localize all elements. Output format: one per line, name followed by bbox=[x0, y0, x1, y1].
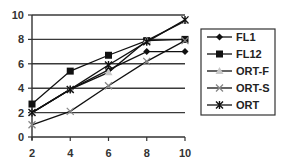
y-tick-label: 6 bbox=[18, 58, 24, 70]
legend-label: FL12 bbox=[236, 48, 262, 60]
series-line bbox=[32, 52, 185, 113]
y-axis-ticks: 0246810 bbox=[12, 9, 25, 143]
square-marker-icon bbox=[105, 52, 112, 59]
series-lines bbox=[28, 16, 189, 128]
legend-label: ORT bbox=[236, 99, 260, 111]
x-tick-label: 2 bbox=[29, 147, 35, 159]
legend-label: ORT-S bbox=[236, 82, 270, 94]
square-marker-icon bbox=[67, 68, 74, 75]
diamond-marker-icon bbox=[182, 48, 189, 55]
star-marker-icon bbox=[105, 61, 112, 69]
x-marker-icon bbox=[67, 108, 74, 115]
series-ort bbox=[29, 16, 189, 117]
diamond-marker-icon bbox=[143, 48, 150, 55]
y-tick-label: 10 bbox=[12, 9, 24, 21]
star-marker-icon bbox=[182, 16, 189, 24]
series-ort-s bbox=[29, 37, 189, 128]
legend-label: FL1 bbox=[236, 31, 256, 43]
x-tick-label: 10 bbox=[179, 147, 191, 159]
legend-label: ORT-F bbox=[236, 65, 269, 77]
square-marker-icon bbox=[29, 101, 36, 108]
line-chart: 0246810 246810 FL1FL12ORT-FORT-SORT bbox=[0, 0, 288, 167]
square-marker-icon bbox=[216, 51, 223, 58]
x-tick-label: 4 bbox=[67, 147, 74, 159]
y-tick-label: 8 bbox=[18, 33, 24, 45]
y-tick-label: 4 bbox=[18, 82, 25, 94]
legend: FL1FL12ORT-FORT-SORT bbox=[201, 29, 275, 115]
x-tick-label: 6 bbox=[105, 147, 111, 159]
x-axis-ticks: 246810 bbox=[29, 147, 191, 159]
y-tick-label: 0 bbox=[18, 131, 24, 143]
y-tick-label: 2 bbox=[18, 107, 24, 119]
x-tick-label: 8 bbox=[144, 147, 150, 159]
